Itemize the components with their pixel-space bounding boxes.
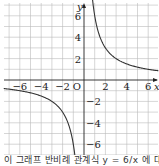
origin-label: O	[73, 81, 81, 92]
curve-branch-negative	[4, 89, 75, 155]
hyperbola-chart: −6−4−2246642−2−4−6Oxy	[0, 0, 159, 155]
x-tick-label: −4	[34, 81, 49, 92]
y-tick-label: −2	[86, 96, 101, 107]
x-tick-label: 2	[102, 81, 108, 92]
y-tick-label: −6	[86, 139, 101, 150]
y-tick-label: 6	[75, 11, 81, 22]
x-axis-label: x	[154, 81, 159, 92]
x-tick-label: 4	[124, 81, 130, 92]
y-tick-label: 4	[75, 32, 81, 43]
x-tick-label: 6	[145, 81, 151, 92]
caption-text: 이 그래프 반비례 관계식 y = 6/x 에 대한 그래프	[4, 153, 159, 166]
x-tick-label: −2	[55, 81, 70, 92]
y-tick-label: −4	[86, 118, 101, 129]
y-tick-label: 2	[75, 54, 81, 65]
y-axis-label: y	[76, 1, 83, 12]
